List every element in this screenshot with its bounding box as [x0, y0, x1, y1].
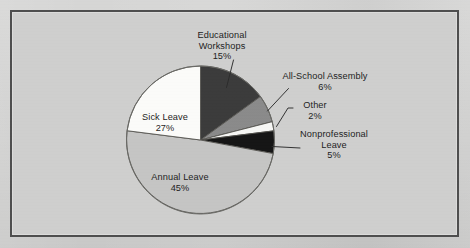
- label-other-text: Other: [303, 100, 326, 111]
- label-sick-leave-value: 27%: [142, 123, 188, 134]
- label-sick-leave-text: Sick Leave: [142, 112, 188, 123]
- label-annual-leave-value: 45%: [151, 183, 208, 194]
- label-all-school-assembly: All-School Assembly 6%: [282, 71, 367, 92]
- label-educational-workshops-value: 15%: [197, 51, 246, 62]
- label-annual-leave-text: Annual Leave: [151, 172, 208, 183]
- label-annual-leave: Annual Leave 45%: [151, 172, 208, 193]
- label-nonprofessional-leave-value: 5%: [300, 150, 368, 161]
- label-sick-leave: Sick Leave 27%: [142, 112, 188, 133]
- label-all-school-assembly-value: 6%: [282, 82, 367, 93]
- label-educational-workshops: Educational Workshops 15%: [197, 30, 246, 62]
- leader-line-other: [277, 108, 294, 127]
- leader-line-nonprofessional-leave: [272, 147, 300, 149]
- label-nonprofessional-leave-line2: Leave: [300, 140, 368, 151]
- label-educational-workshops-line1: Educational: [197, 30, 246, 41]
- label-nonprofessional-leave: Nonprofessional Leave 5%: [300, 129, 368, 161]
- label-other: Other 2%: [303, 100, 326, 121]
- label-all-school-assembly-text: All-School Assembly: [282, 71, 367, 82]
- label-nonprofessional-leave-line1: Nonprofessional: [300, 129, 368, 140]
- chart-screenshot: Educational Workshops 15% All-School Ass…: [0, 0, 470, 248]
- label-educational-workshops-line2: Workshops: [197, 41, 246, 52]
- label-other-value: 2%: [303, 111, 326, 122]
